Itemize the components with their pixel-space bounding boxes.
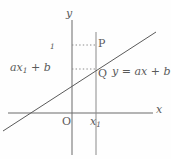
y-axis-label: y — [66, 8, 72, 19]
origin-label: O — [62, 116, 71, 127]
point-p-label: P — [98, 38, 105, 49]
equation-label: y = ax + b — [112, 66, 170, 77]
equation-b: b — [163, 65, 170, 78]
equals-sign: = — [118, 65, 134, 78]
plus-operator: + — [28, 61, 44, 74]
point-q-label: Q — [98, 68, 107, 79]
y1-tick-label: 1 — [50, 38, 55, 50]
graph-canvas — [0, 0, 171, 159]
x1-subscript: 1 — [96, 120, 101, 129]
linear-function-figure: y x 1 ax1 + b P Q O x1 y = ax + b — [0, 0, 171, 159]
equation-plus: + — [147, 65, 163, 78]
x1-tick-label: x1 — [90, 116, 101, 128]
ax1-plus-b-label: ax1 + b — [10, 62, 51, 74]
function-line — [3, 32, 156, 131]
x-axis-label: x — [156, 104, 162, 115]
y1-subscript: 1 — [50, 42, 55, 51]
constant-b: b — [44, 61, 51, 74]
